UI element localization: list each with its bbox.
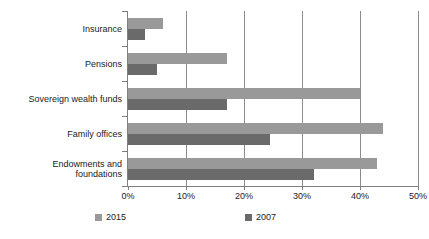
x-tick-mark [128, 186, 129, 190]
y-tick-mark [122, 151, 128, 152]
x-tick-label: 20% [224, 191, 264, 202]
x-tick-mark [302, 186, 303, 190]
bar [128, 64, 157, 75]
bar [128, 29, 145, 40]
y-tick-mark [122, 186, 128, 187]
category-label-line: Pensions [2, 59, 122, 69]
bar [128, 158, 377, 169]
category-label: Pensions [2, 59, 122, 69]
chart-legend: 20152007 [0, 212, 429, 228]
bar [128, 88, 360, 99]
y-tick-mark [122, 11, 128, 12]
gridline-50% [418, 11, 419, 186]
category-label: Insurance [2, 24, 122, 34]
legend-swatch-icon [95, 214, 102, 221]
legend-swatch-icon [245, 214, 252, 221]
bar [128, 123, 383, 134]
x-tick-mark [186, 186, 187, 190]
category-label-line: Insurance [2, 24, 122, 34]
category-label-line: Sovereign wealth funds [2, 94, 122, 104]
category-label: Family offices [2, 129, 122, 139]
y-tick-mark [122, 81, 128, 82]
legend-item-2015[interactable]: 2015 [95, 212, 126, 223]
x-tick-label: 50% [398, 191, 429, 202]
x-tick-mark [360, 186, 361, 190]
category-label: Sovereign wealth funds [2, 94, 122, 104]
legend-item-2007[interactable]: 2007 [245, 212, 276, 223]
x-tick-label: 0% [108, 191, 148, 202]
category-label-line: Family offices [2, 129, 122, 139]
plot-area [128, 11, 418, 186]
bar [128, 53, 227, 64]
bar [128, 99, 227, 110]
x-tick-label: 10% [166, 191, 206, 202]
y-axis-line [127, 11, 128, 187]
bar [128, 134, 270, 145]
category-label-line: Endowments and [2, 159, 122, 169]
bar [128, 169, 314, 180]
x-tick-mark [244, 186, 245, 190]
y-tick-mark [122, 46, 128, 47]
x-axis-line [127, 186, 419, 187]
x-tick-mark [418, 186, 419, 190]
x-tick-label: 30% [282, 191, 322, 202]
bar-chart: 0%10%20%30%40%50% InsurancePensionsSover… [0, 0, 429, 239]
legend-label: 2015 [106, 212, 126, 223]
y-tick-mark [122, 116, 128, 117]
legend-label: 2007 [256, 212, 276, 223]
category-label: Endowments andfoundations [2, 159, 122, 179]
category-label-line: foundations [2, 169, 122, 179]
bar [128, 18, 163, 29]
x-tick-label: 40% [340, 191, 380, 202]
